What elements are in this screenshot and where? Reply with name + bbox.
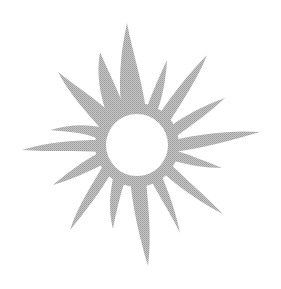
sun-center-disc [106,114,168,176]
sun-icon [0,0,281,289]
sun-illustration: Gray halftone sun with wavy flame-like r… [0,0,281,289]
